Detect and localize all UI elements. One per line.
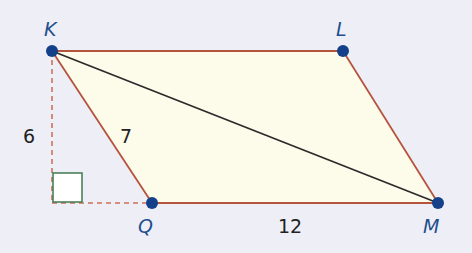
vertex-m	[432, 197, 444, 209]
parallelogram-diagram: K L Q M 6 7 12	[0, 0, 472, 253]
side-qm-measure-label: 12	[278, 215, 302, 237]
vertex-q	[146, 197, 158, 209]
side-kq-measure-label: 7	[120, 125, 132, 147]
vertex-label-q: Q	[138, 215, 153, 237]
vertex-k	[46, 45, 58, 57]
height-measure-label: 6	[23, 125, 35, 147]
vertex-l	[337, 45, 349, 57]
vertex-label-m: M	[423, 215, 439, 237]
diagram-canvas: K L Q M 6 7 12	[0, 0, 472, 253]
vertex-label-k: K	[44, 18, 58, 40]
right-angle-marker	[53, 173, 82, 202]
vertex-label-l: L	[336, 18, 347, 40]
